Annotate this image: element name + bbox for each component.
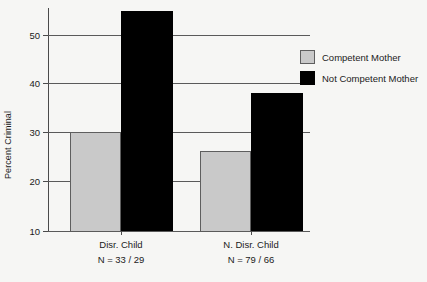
tickmark-50 — [43, 35, 48, 36]
tickmark-20 — [43, 181, 48, 182]
tickmark-30 — [43, 132, 48, 133]
x-group-label-ndisr-child: N. Disr. Child N = 79 / 66 — [181, 237, 321, 267]
x-group-n-disr-child: N = 33 / 29 — [51, 252, 191, 267]
bar-ndisr-child-not-competent — [251, 93, 303, 231]
tickmark-10 — [43, 231, 48, 232]
y-tick-label-10: 10 — [29, 226, 40, 237]
bar-disr-child-competent — [70, 132, 121, 231]
bar-disr-child-not-competent — [121, 11, 173, 231]
y-tick-label-20: 20 — [29, 176, 40, 187]
legend-label-not-competent-mother: Not Competent Mother — [322, 73, 418, 84]
y-axis-spine — [48, 8, 49, 231]
gridline-50 — [48, 35, 310, 36]
legend-swatch-competent-icon — [300, 50, 315, 64]
y-tick-label-50: 50 — [29, 30, 40, 41]
tickmark-40 — [43, 83, 48, 84]
legend-swatch-not-competent-icon — [300, 71, 315, 85]
legend-label-competent-mother: Competent Mother — [322, 52, 401, 63]
chart-legend: Competent Mother Not Competent Mother — [300, 48, 418, 90]
x-group-name-ndisr-child: N. Disr. Child — [181, 237, 321, 252]
x-tick-disr-child — [121, 231, 122, 235]
gridline-10 — [48, 231, 310, 232]
x-group-name-disr-child: Disr. Child — [51, 237, 191, 252]
plot-area: 10 20 30 40 50 — [48, 8, 310, 231]
bar-ndisr-child-competent — [200, 151, 251, 231]
y-axis-title: Percent Criminal — [0, 100, 16, 190]
x-group-label-disr-child: Disr. Child N = 33 / 29 — [51, 237, 191, 267]
legend-item-not-competent-mother: Not Competent Mother — [300, 69, 418, 87]
y-axis-title-text: Percent Criminal — [3, 111, 13, 179]
x-tick-ndisr-child — [251, 231, 252, 235]
bar-chart-figure: Percent Criminal 10 20 30 40 5 — [0, 0, 427, 282]
x-group-n-ndisr-child: N = 79 / 66 — [181, 252, 321, 267]
y-tick-label-40: 40 — [29, 78, 40, 89]
gridline-40 — [48, 83, 310, 84]
legend-item-competent-mother: Competent Mother — [300, 48, 418, 66]
y-tick-label-30: 30 — [29, 127, 40, 138]
